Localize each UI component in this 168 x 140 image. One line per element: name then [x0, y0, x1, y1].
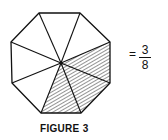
fraction-denominator: 8 — [139, 59, 151, 71]
center-point — [60, 62, 63, 65]
figure-caption: FIGURE 3 — [40, 123, 89, 134]
shaded-sections — [41, 42, 110, 113]
fraction: 3 8 — [139, 44, 151, 71]
equals-sign: = — [129, 47, 136, 61]
fraction-numerator: 3 — [139, 44, 151, 56]
